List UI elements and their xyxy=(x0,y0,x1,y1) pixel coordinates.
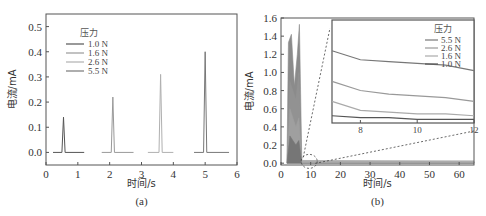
x-tick-label: 1 xyxy=(75,168,81,180)
y-tick-label: 1.2 xyxy=(263,48,277,60)
x-tick-label: 6 xyxy=(234,168,240,180)
series-10N xyxy=(287,136,474,163)
y-tick-label: 0.5 xyxy=(28,21,42,33)
y-tick-label: 0.1 xyxy=(28,121,42,133)
inset-x-tick-label: 8 xyxy=(358,125,363,135)
y-tick-label: 0.3 xyxy=(28,71,42,83)
x-tick-label: 40 xyxy=(394,168,406,180)
x-axis-label: 时间/s xyxy=(127,177,156,189)
y-tick-label: 0.0 xyxy=(263,157,277,169)
x-tick-label: 10 xyxy=(305,168,317,180)
inset-legend-title: 压力 xyxy=(434,23,452,34)
y-tick-label: 0.2 xyxy=(263,139,277,151)
inset-x-tick-label: 10 xyxy=(413,125,423,135)
zoom-guide-line xyxy=(303,28,330,157)
zoom-guide-line xyxy=(315,131,474,163)
legend-title: 压力 xyxy=(80,27,98,38)
y-axis-label: 电流/mA xyxy=(6,69,18,109)
y-tick-label: 1.0 xyxy=(263,66,277,78)
y-tick-label: 0.4 xyxy=(263,121,277,133)
panel-caption: (b) xyxy=(371,195,384,208)
legend-entry: 5.5 N xyxy=(88,66,109,76)
series-line xyxy=(102,97,134,152)
y-tick-label: 0.8 xyxy=(263,85,277,97)
x-tick-label: 2 xyxy=(107,168,113,180)
figure: 0.00.10.20.30.40.50123456时间/s电流/mA(a)压力1… xyxy=(0,0,486,216)
y-tick-label: 1.6 xyxy=(263,12,277,24)
x-tick-label: 50 xyxy=(424,168,436,180)
x-tick-label: 20 xyxy=(335,168,347,180)
chart-panel-b: 0.00.20.40.60.81.01.21.41.60102030405060… xyxy=(243,12,479,208)
plot-frame xyxy=(46,14,237,165)
x-tick-label: 4 xyxy=(171,168,177,180)
chart-panel-a: 0.00.10.20.30.40.50123456时间/s电流/mA(a)压力1… xyxy=(6,14,240,208)
series-line xyxy=(194,52,229,153)
y-tick-label: 0.2 xyxy=(28,96,42,108)
x-axis-label: 时间/s xyxy=(363,177,392,189)
inset-chart: 81012压力5.5 N2.6 N1.6 N1.0 N xyxy=(332,20,479,135)
panel-caption: (a) xyxy=(135,195,148,208)
series-line xyxy=(148,74,173,152)
series-line xyxy=(53,117,84,152)
legend: 压力1.0 N1.6 N2.6 N5.5 N xyxy=(66,27,109,76)
x-tick-label: 5 xyxy=(202,168,208,180)
x-tick-label: 60 xyxy=(454,168,466,180)
y-tick-label: 0.4 xyxy=(28,46,42,58)
inset-legend-entry: 1.0 N xyxy=(441,59,462,69)
inset-x-tick-label: 12 xyxy=(470,125,479,135)
y-tick-label: 1.4 xyxy=(263,30,277,42)
y-tick-label: 0.0 xyxy=(28,146,42,158)
x-tick-label: 0 xyxy=(278,168,284,180)
y-tick-label: 0.6 xyxy=(263,103,277,115)
x-tick-label: 0 xyxy=(43,168,49,180)
y-axis-label: 电流/mA xyxy=(243,71,255,111)
